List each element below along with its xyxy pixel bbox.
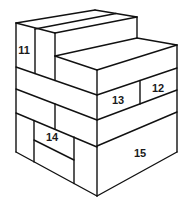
block-label-13: 13 xyxy=(112,94,124,106)
block-stack-diagram: 11 12 13 14 15 xyxy=(0,0,185,205)
block-label-15: 15 xyxy=(134,147,146,159)
block-stack-svg: 11 12 13 14 15 xyxy=(0,0,185,205)
block-label-12: 12 xyxy=(152,82,164,94)
block-label-14: 14 xyxy=(46,131,59,143)
block-label-11: 11 xyxy=(18,44,30,56)
